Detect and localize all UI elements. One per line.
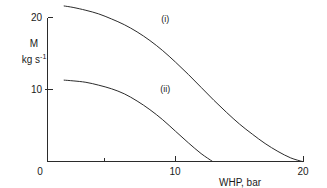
y-axis-units-base: kg s xyxy=(22,54,40,65)
chart-figure: 20 10 0 10 20 M kg s-1 WHP, bar (i) (ii) xyxy=(0,0,327,188)
y-axis-title-symbol: M xyxy=(30,38,38,49)
x-axis-title-label: WHP, bar xyxy=(219,177,262,188)
curve-series-ii xyxy=(64,80,212,161)
y-axis-units-exponent: -1 xyxy=(40,53,46,60)
y-tick-label-10: 10 xyxy=(31,84,43,95)
y-axis-title-units: kg s-1 xyxy=(22,53,47,65)
y-tick-label-20: 20 xyxy=(31,12,43,23)
x-tick-label-20: 20 xyxy=(297,166,309,177)
y-axis-title: M kg s-1 xyxy=(22,38,47,65)
series-curves xyxy=(64,6,302,162)
series-label-i: (i) xyxy=(161,14,169,24)
line-chart-plot: 20 10 0 10 20 M kg s-1 WHP, bar (i) (ii) xyxy=(0,0,327,188)
series-label-ii: (ii) xyxy=(160,84,170,94)
x-tick-label-0: 0 xyxy=(37,166,43,177)
x-axis-title: WHP, bar xyxy=(219,177,262,188)
series-annotations: (i) (ii) xyxy=(160,14,170,95)
x-tick-labels: 0 10 20 xyxy=(37,166,309,177)
x-tick-label-10: 10 xyxy=(169,166,181,177)
x-axis-ticks xyxy=(105,156,304,162)
axes-group xyxy=(48,18,304,162)
